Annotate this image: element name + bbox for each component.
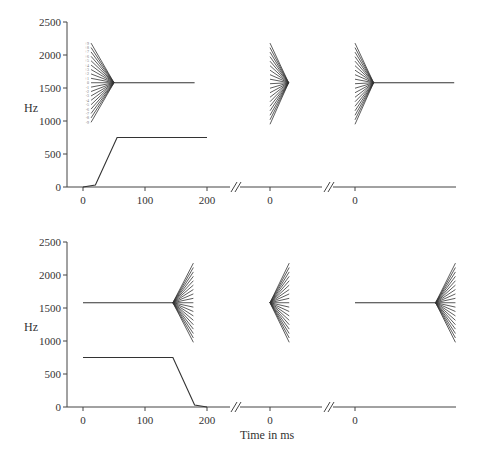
- y-tick-label: 2000: [39, 269, 62, 281]
- transition-fan-line: [173, 303, 193, 343]
- y-tick-label: 500: [45, 368, 62, 380]
- y-tick-label: 1000: [39, 115, 62, 127]
- y-tick-label: 0: [56, 181, 62, 193]
- x-tick-label: 100: [137, 194, 154, 206]
- x-tick-label: 0: [352, 414, 358, 426]
- transition-fan-line: [436, 303, 456, 343]
- y-tick-label: 2500: [39, 16, 62, 28]
- transition-fan-line: [91, 83, 114, 123]
- formant-trace: [83, 358, 207, 408]
- top-y-axis-label: Hz: [24, 101, 38, 115]
- transition-fan-line: [355, 66, 374, 83]
- formant-transition-figure: 05001000150020002500010020000+9+8+7+6+5+…: [0, 0, 478, 456]
- x-tick-label: 200: [199, 414, 216, 426]
- bottom-chart-panel: 05001000150020002500010020000: [39, 236, 456, 426]
- y-tick-label: 0: [56, 401, 62, 413]
- x-axis-label: Time in ms: [240, 428, 295, 442]
- x-tick-label: 0: [352, 194, 358, 206]
- transition-fan-line: [270, 66, 289, 83]
- y-tick-label: 2000: [39, 49, 62, 61]
- y-tick-label: 500: [45, 148, 62, 160]
- fan-step-label: -9: [86, 120, 89, 125]
- y-tick-label: 1500: [39, 302, 62, 314]
- transition-fan-line: [270, 303, 289, 343]
- x-tick-label: 0: [267, 194, 273, 206]
- bottom-y-axis-label: Hz: [24, 320, 38, 334]
- top-chart-panel: 05001000150020002500010020000+9+8+7+6+5+…: [39, 16, 456, 206]
- transition-fan-line: [355, 83, 374, 125]
- x-tick-label: 200: [199, 194, 216, 206]
- x-tick-label: 0: [80, 414, 86, 426]
- y-tick-label: 1000: [39, 335, 62, 347]
- x-tick-label: 0: [80, 194, 86, 206]
- y-tick-label: 2500: [39, 236, 62, 248]
- formant-trace: [83, 138, 207, 188]
- transition-fan-line: [270, 83, 289, 125]
- y-tick-label: 1500: [39, 82, 62, 94]
- x-tick-label: 100: [137, 414, 154, 426]
- x-tick-label: 0: [267, 414, 273, 426]
